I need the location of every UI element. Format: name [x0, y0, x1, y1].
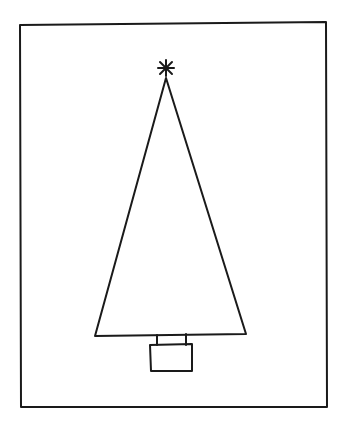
tree-pot — [150, 344, 192, 371]
star-icon — [158, 60, 174, 76]
frame-border — [20, 22, 327, 407]
tree-triangle — [95, 78, 246, 336]
christmas-tree-drawing — [0, 0, 345, 424]
